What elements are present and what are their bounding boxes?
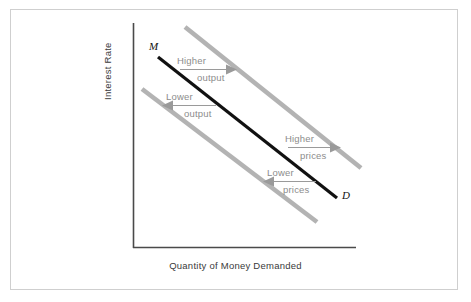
annotation-lower-output-line1: Lower <box>166 92 193 102</box>
annotation-higher-prices-line2: prices <box>300 151 327 161</box>
curve-label-m: M <box>149 41 158 52</box>
money-demand-figure: M D Higher output Lower output Higher pr… <box>0 0 471 302</box>
annotation-lower-prices-line2: prices <box>283 185 310 195</box>
y-axis-title: Interest Rate <box>103 42 113 100</box>
plot-canvas <box>0 0 471 302</box>
annotation-higher-output-line1: Higher <box>177 56 206 66</box>
curve-label-d: D <box>342 190 350 201</box>
annotation-lower-prices-line1: Lower <box>267 168 294 178</box>
annotation-higher-output-line2: output <box>197 73 225 83</box>
annotation-lower-output-line2: output <box>184 109 212 119</box>
x-axis-title: Quantity of Money Demanded <box>0 261 471 271</box>
annotation-higher-prices-line1: Higher <box>285 134 314 144</box>
